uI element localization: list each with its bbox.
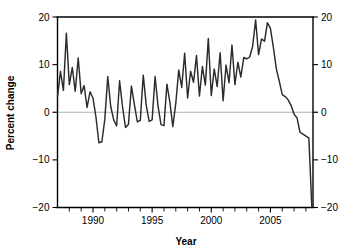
y-tick-label-left: −20	[33, 202, 50, 213]
y-tick-label-right: 0	[321, 107, 327, 118]
x-tick-label: 2005	[259, 215, 282, 226]
y-tick-label-left: −10	[33, 154, 50, 165]
chart-figure: 1990199520002005 20100−10−20 20100−10−20…	[0, 0, 358, 252]
y-tick-label-left: 10	[38, 59, 50, 70]
chart-background	[0, 0, 358, 252]
y-tick-label-right: 20	[321, 12, 333, 23]
y-axis-title: Percent change	[5, 75, 16, 150]
x-tick-label: 1990	[82, 215, 105, 226]
x-axis-title: Year	[175, 236, 196, 247]
y-tick-label-left: 20	[38, 12, 50, 23]
y-tick-label-right: 10	[321, 59, 333, 70]
x-tick-label: 2000	[200, 215, 223, 226]
y-tick-label-left: 0	[44, 107, 50, 118]
y-tick-label-right: −10	[321, 154, 338, 165]
x-tick-label: 1995	[141, 215, 164, 226]
line-chart: 1990199520002005 20100−10−20 20100−10−20…	[0, 0, 358, 252]
y-tick-label-right: −20	[321, 202, 338, 213]
